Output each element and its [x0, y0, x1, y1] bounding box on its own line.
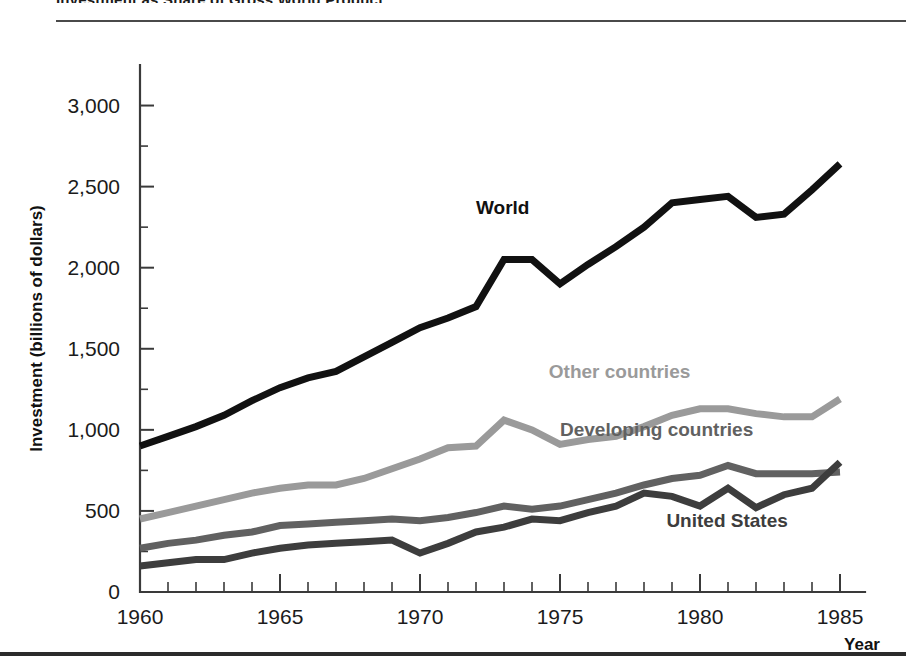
line-chart: 05001,0001,5002,0002,5003,000 1960196519…: [0, 0, 906, 662]
y-axis-tick-labels: 05001,0001,5002,0002,5003,000: [67, 94, 120, 603]
y-axis-title: Investment (billions of dollars): [27, 205, 46, 452]
x-tick-label: 1980: [677, 605, 724, 628]
x-axis-title: Year: [844, 635, 880, 654]
series-label-developing-countries: Developing countries: [560, 419, 753, 440]
x-tick-label: 1985: [817, 605, 864, 628]
series-line-other-countries: [140, 399, 840, 519]
x-tick-label: 1975: [537, 605, 584, 628]
chart-series-labels: WorldOther countriesDeveloping countries…: [476, 197, 788, 531]
series-label-world: World: [476, 197, 529, 218]
y-tick-label: 0: [108, 580, 120, 603]
series-label-united-states: United States: [666, 510, 787, 531]
x-tick-label: 1960: [117, 605, 164, 628]
y-tick-label: 2,500: [67, 175, 120, 198]
x-tick-label: 1970: [397, 605, 444, 628]
series-line-developing-countries: [140, 466, 840, 549]
y-tick-label: 2,000: [67, 256, 120, 279]
y-tick-label: 500: [85, 499, 120, 522]
x-axis-tick-labels: 196019651970197519801985: [117, 605, 864, 628]
chart-series-lines: [140, 164, 840, 566]
y-tick-label: 3,000: [67, 94, 120, 117]
figure-container: Investment as Share of Gross World Produ…: [0, 0, 906, 662]
series-label-other-countries: Other countries: [549, 361, 690, 382]
y-tick-label: 1,000: [67, 418, 120, 441]
y-tick-label: 1,500: [67, 337, 120, 360]
x-tick-label: 1965: [257, 605, 304, 628]
